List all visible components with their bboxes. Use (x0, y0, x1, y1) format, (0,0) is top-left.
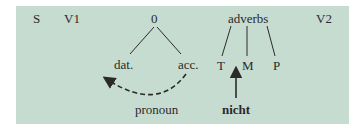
branch-adverbs-t (222, 26, 231, 56)
label-acc: acc. (178, 58, 199, 71)
label-adverbs: adverbs (228, 12, 268, 25)
label-zero: 0 (151, 12, 158, 25)
label-v2: V2 (316, 12, 332, 25)
label-p: P (273, 59, 280, 72)
label-m: M (242, 59, 254, 72)
label-v1: V1 (64, 12, 80, 25)
label-pronoun: pronoun (135, 103, 178, 116)
label-dat: dat. (114, 58, 133, 71)
label-nicht: nicht (222, 103, 250, 116)
label-s: S (33, 12, 40, 25)
branch-zero-acc (157, 27, 181, 54)
branch-zero-dat (130, 27, 154, 54)
pronoun-movement-arc (108, 74, 186, 95)
branch-adverbs-p (267, 26, 275, 56)
label-t: T (217, 59, 225, 72)
